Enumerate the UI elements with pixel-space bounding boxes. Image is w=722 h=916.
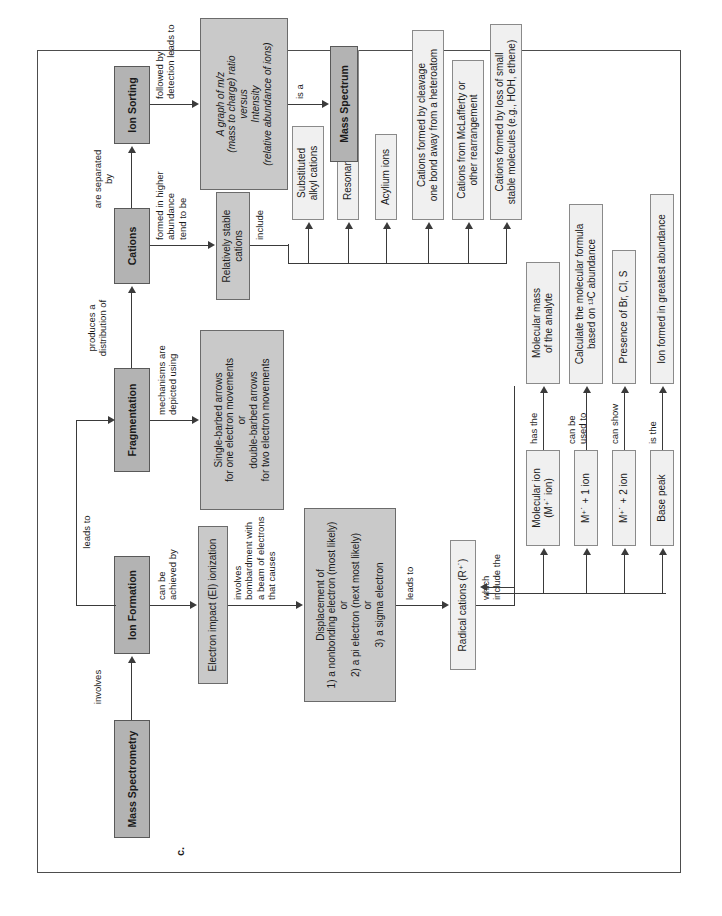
arrow-bus-acylium [383, 222, 391, 229]
arrow-ms-to-ionformation [128, 656, 136, 663]
connector-label-produces-distribution: produces a distribution of [86, 288, 109, 368]
connector-line-cations-to-ionsorting [131, 152, 132, 208]
arrow-cations-to-stable [208, 241, 215, 249]
connector-line-ionformation-down [150, 605, 194, 606]
node-cations[interactable]: Cations [114, 208, 150, 284]
connector-line-stable-down [250, 245, 288, 246]
connector-line-bus-resonance [348, 228, 349, 264]
connector-line-fragmentation-down [150, 420, 196, 421]
arrow-bus-m1 [583, 548, 591, 555]
connector-line-radical-down [476, 605, 514, 606]
connector-label-mechanisms-depicted: mechanisms are depicted using [156, 319, 179, 415]
connector-line-to-molecular-ion [486, 587, 514, 588]
arrow-to-molecular-ion [480, 583, 487, 591]
connector-line-bus-cleavage [428, 228, 429, 264]
node-base-peak[interactable]: Base peak [650, 450, 674, 546]
node-loss-small-molecules[interactable]: Cations formed by loss of small stable m… [490, 24, 522, 220]
connector-line-cations-down [150, 245, 212, 246]
node-calculate-formula[interactable]: Calculate the molecular formula based on… [569, 204, 603, 384]
connector-line-bus-m1 [586, 554, 587, 594]
node-substituted-alkyl[interactable]: Substituted alkyl cations [292, 126, 324, 220]
connector-line-graph-down [288, 104, 326, 105]
figure-letter: c. [174, 847, 186, 856]
connector-label-can-be-achieved-by: can be achieved by [156, 508, 179, 600]
arrow-bus-mclafferty [465, 222, 473, 229]
arrow-bus-resonance [345, 222, 353, 229]
connector-label-can-show: can show [609, 392, 620, 444]
connector-line-bus-substituted [308, 228, 309, 264]
connector-label-involves: involves [92, 658, 103, 716]
arrow-ionformation-to-ei [190, 601, 197, 609]
connector-label-include: include [254, 196, 265, 240]
arrow-ei-to-displacement [296, 601, 303, 609]
node-molecular-ion[interactable]: Molecular ion (M⁺˙ ion) [526, 450, 560, 546]
arrow-fragmentation-to-arrows [192, 416, 199, 424]
node-displacement[interactable]: Displacement of 1) a nonbonding electron… [304, 508, 396, 702]
node-cleavage-heteroatom[interactable]: Cations formed by cleavage one bond away… [412, 30, 444, 220]
connector-line-bus-molecular-ion [543, 554, 544, 594]
arrow-graph-to-mass-spectrum [322, 100, 329, 108]
arrow-basepeak-out [659, 386, 667, 393]
node-graph-mz[interactable]: A graph of m/z (mass to charge) ratio ve… [200, 18, 288, 190]
node-acylium-ions[interactable]: Acylium ions [375, 134, 397, 220]
connector-line-stable-to-bus [288, 244, 289, 264]
connector-line-ionsorting-down [150, 104, 196, 105]
arrow-molecular-ion-out [540, 386, 548, 393]
node-arrows-box[interactable]: Single-barbed arrows for one electron mo… [200, 330, 284, 510]
arrow-ionsorting-to-graph [192, 100, 199, 108]
connector-label-leads-to-radical: leads to [404, 542, 415, 600]
arrow-bus-cleavage [425, 222, 433, 229]
connector-label-formed-higher-abundance: formed in higher abundance tend to be [154, 144, 188, 240]
connector-line-ms-to-ionformation [131, 662, 132, 720]
arrow-m1-out [583, 386, 591, 393]
node-mass-spectrum[interactable]: Mass Spectrum [330, 46, 358, 162]
connector-label-followed-by-detection: followed by detection leads to [154, 3, 177, 99]
arrow-bus-m2 [621, 548, 629, 555]
node-ei-ionization[interactable]: Electron impact (EI) ionization [198, 526, 228, 684]
connector-line-ionformation-to-fragmentation [76, 420, 77, 606]
node-presence-halogens[interactable]: Presence of Br, Cl, S [612, 250, 636, 384]
connector-label-are-separated-by: are separated by [92, 144, 115, 214]
connector-line-molecular-ion-out [543, 392, 544, 450]
spacer [450, 644, 454, 650]
connector-line-bus-loss-small [506, 228, 507, 264]
arrow-displacement-to-radical [442, 601, 449, 609]
node-ion-sorting[interactable]: Ion Sorting [114, 66, 150, 144]
node-mass-spectrometry[interactable]: Mass Spectrometry [114, 720, 150, 838]
node-mclafferty[interactable]: Cations from McLafferty or other rearran… [452, 60, 484, 220]
node-m-plus-1-ion[interactable]: M⁺˙ + 1 ion [574, 450, 598, 546]
connector-line-ionformation-up [76, 605, 116, 606]
connector-line-bus-mclafferty [468, 228, 469, 264]
arrow-m2-out [621, 386, 629, 393]
connector-line-m2-out [624, 392, 625, 450]
node-radical-cations[interactable]: Radical cations (R⁺˙) [450, 540, 476, 670]
connector-bus-radical-cations [514, 386, 515, 606]
arrow-bus-basepeak [659, 548, 667, 555]
node-m-plus-2-ion[interactable]: M⁺˙ + 2 ion [612, 450, 636, 546]
arrow-to-fragmentation [108, 416, 115, 424]
connector-bus-ions-vertical [486, 593, 666, 594]
node-molecular-mass[interactable]: Molecular mass of the analyte [526, 262, 560, 384]
connector-line-bus-m2 [624, 554, 625, 594]
arrow-bus-molecular-ion [540, 548, 548, 555]
connector-label-is-a: is a [294, 59, 305, 99]
connector-label-has-the: has the [528, 396, 539, 444]
arrow-cations-to-ionsorting [128, 146, 136, 153]
connector-line-down-to-fragmentation [76, 420, 112, 421]
concept-map-canvas: c. Mass Spectrometry Ion Formation Fragm… [56, 50, 656, 862]
node-ion-formation[interactable]: Ion Formation [114, 556, 150, 654]
connector-line-bus-basepeak [662, 554, 663, 594]
connector-line-ei-down [228, 605, 300, 606]
node-relatively-stable-cations[interactable]: Relatively stable cations [216, 192, 250, 300]
arrow-fragmentation-to-cations [128, 286, 136, 293]
connector-label-is-the: is the [647, 396, 658, 444]
connector-label-leads-to-fragmentation: leads to [81, 502, 92, 562]
connector-bus-cations-vertical [288, 263, 506, 264]
node-greatest-abundance[interactable]: Ion formed in greatest abundance [650, 194, 674, 384]
connector-line-m1-out [586, 392, 587, 450]
connector-line-bus-acylium [386, 228, 387, 264]
connector-line-basepeak-out [662, 392, 663, 450]
node-fragmentation[interactable]: Fragmentation [114, 368, 150, 472]
arrow-bus-substituted [305, 222, 313, 229]
arrow-bus-loss-small [503, 222, 511, 229]
